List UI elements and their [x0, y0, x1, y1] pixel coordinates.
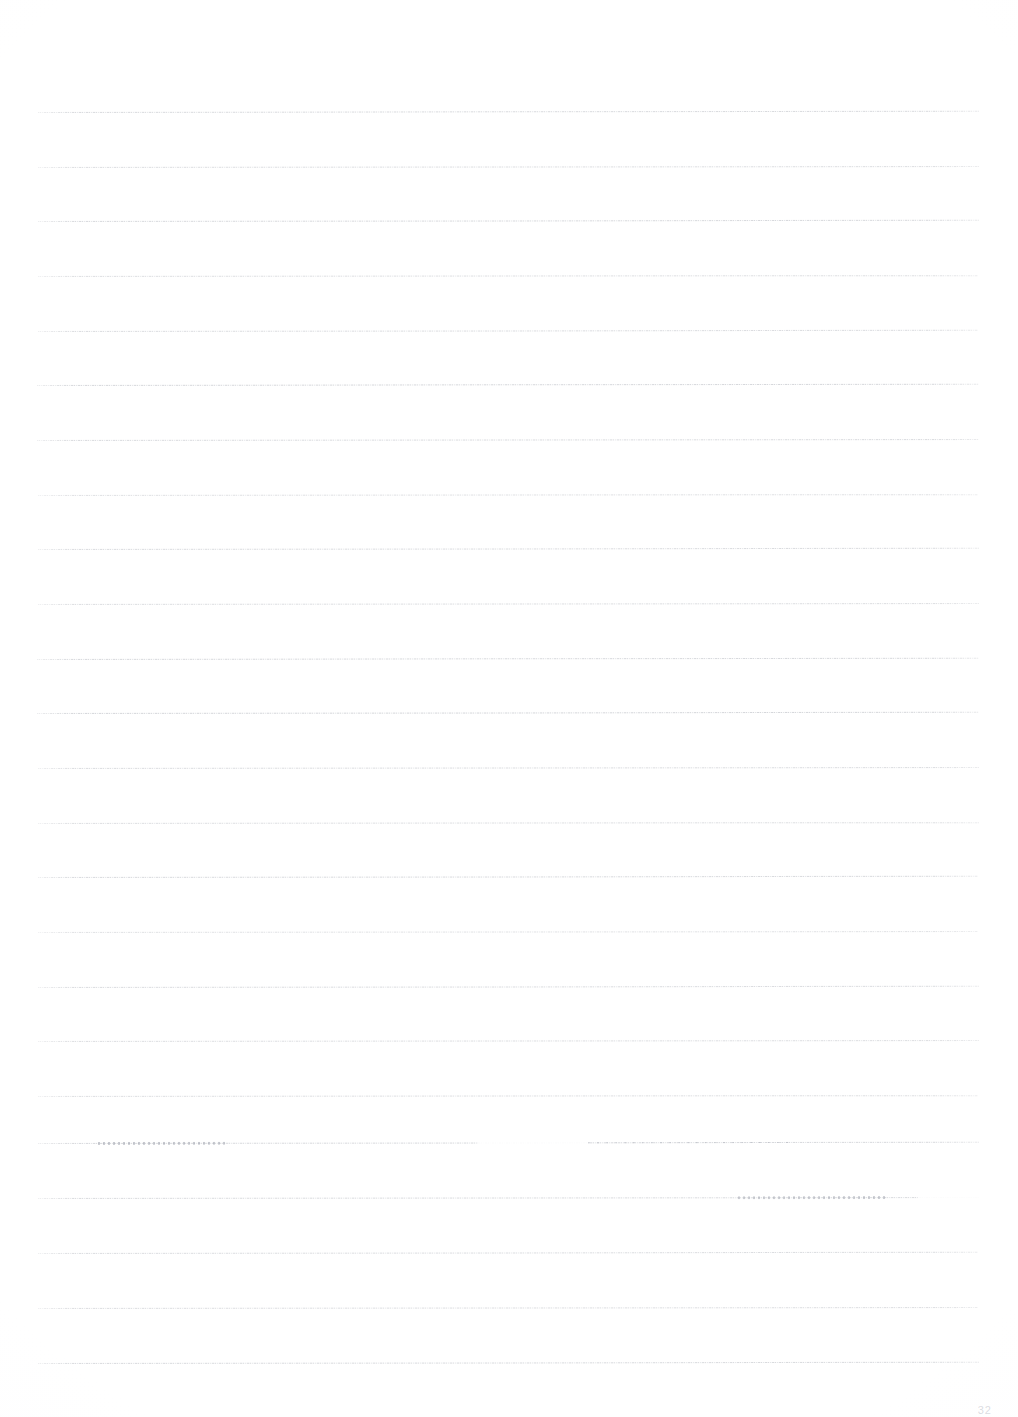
ruled-line [37, 657, 979, 661]
page-number: 32 [978, 1405, 992, 1416]
ruled-line-ink [38, 876, 978, 878]
ruled-line [38, 875, 978, 879]
ruled-line-ink [38, 1307, 978, 1309]
ruled-line [37, 383, 979, 387]
ruled-line-ink [38, 1362, 979, 1364]
scanned-page: 32 [0, 0, 1018, 1417]
ruled-line [38, 219, 979, 223]
ruled-line-ink [38, 494, 978, 496]
ruled-line [38, 547, 979, 551]
ruled-line [38, 985, 979, 989]
ruled-line [38, 930, 978, 934]
ruled-line-ink [38, 220, 979, 222]
ruled-line-dark-segment [98, 1142, 228, 1145]
ruled-line-ink [38, 1252, 978, 1254]
ruled-line-ink [38, 275, 978, 277]
ruled-line-ink [37, 712, 979, 714]
ruled-line-ink [38, 111, 979, 113]
ruled-line-dotted-segment [588, 1142, 788, 1143]
ruled-line [38, 602, 979, 606]
ruled-line [38, 821, 979, 825]
ruled-line-ink [38, 548, 979, 550]
ruled-line [38, 493, 978, 497]
ruled-line [38, 766, 979, 770]
ruled-line-ink [38, 1040, 979, 1042]
ruled-line-ink [38, 931, 978, 933]
ruled-line-ink [38, 603, 979, 605]
ruled-line-dark-segment [738, 1196, 888, 1199]
ruled-line-ink [38, 1095, 978, 1097]
ruled-line-ink [38, 767, 979, 769]
ruled-line-ink [38, 986, 979, 988]
ruled-line-ink [37, 384, 979, 386]
ruled-line [38, 1361, 979, 1365]
ruled-line [38, 1196, 979, 1200]
ruled-line-ink [37, 658, 979, 660]
ruled-line [37, 438, 979, 442]
ruled-line [38, 1039, 979, 1043]
ruled-line [38, 1251, 978, 1255]
ruled-line [38, 274, 978, 278]
ruled-line-ink [38, 330, 978, 332]
ruled-line-ink [37, 439, 979, 441]
ruled-line [38, 329, 978, 333]
ruled-line [38, 1306, 978, 1310]
ruled-line-ink [38, 822, 979, 824]
ruled-line [38, 110, 979, 114]
ruled-line-faded-gap [918, 1196, 979, 1200]
ruled-line [38, 165, 979, 169]
ruled-line [37, 711, 979, 715]
ruled-line [38, 1141, 979, 1145]
ruled-line [38, 1094, 978, 1098]
ruled-lines-layer [0, 0, 1018, 1417]
ruled-line-faded-gap [478, 1141, 588, 1145]
ruled-line-ink [38, 166, 979, 168]
